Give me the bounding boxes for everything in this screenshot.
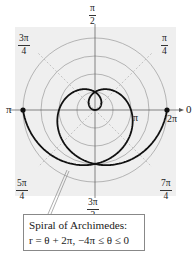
label-radial-2pi: 2π [167,114,177,124]
endpoint-right [164,107,169,112]
label-3pi-over-4: 3π4 [18,33,30,56]
plot-background [15,27,176,196]
caption-equation: r = θ + 2π, −4π ≤ θ ≤ 0 [29,233,140,248]
caption-box: Spiral of Archimedes: r = θ + 2π, −4π ≤ … [23,214,145,251]
label-5pi-over-4: 5π4 [16,178,28,201]
label-pi-over-4: π4 [161,33,168,56]
label-pi-left: π [6,104,12,115]
axis-arrow-icon [179,108,184,112]
label-radial-pi: π [133,113,138,123]
label-pi-over-2: π2 [89,3,96,26]
label-zero: 0 [186,104,192,115]
caption-title: Spiral of Archimedes: [29,218,140,233]
endpoint-left [20,107,25,112]
label-7pi-over-4: 7π4 [160,178,172,201]
